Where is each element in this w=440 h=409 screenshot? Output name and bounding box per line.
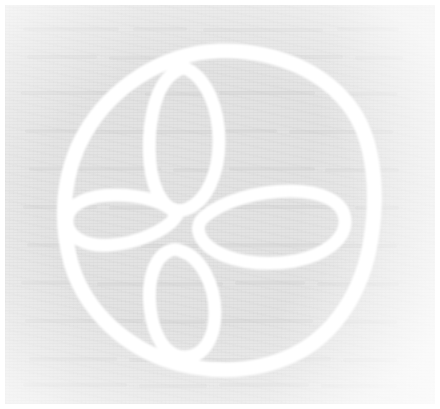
quatrefoil-drawing — [5, 5, 435, 404]
screenshot-root — [0, 0, 440, 409]
scanned-paper — [5, 5, 435, 404]
petal-top-stroke — [149, 68, 219, 210]
petal-bottom-stroke — [149, 250, 215, 358]
petal-right-stroke — [198, 191, 345, 263]
petal-left-stroke — [67, 195, 177, 245]
